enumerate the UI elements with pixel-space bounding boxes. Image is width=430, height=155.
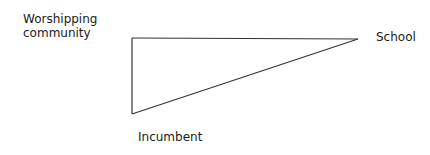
edge-school-incumbent: [132, 39, 358, 114]
triangle-diagram: [0, 0, 430, 155]
edge-worshipping-community-school: [132, 38, 358, 39]
